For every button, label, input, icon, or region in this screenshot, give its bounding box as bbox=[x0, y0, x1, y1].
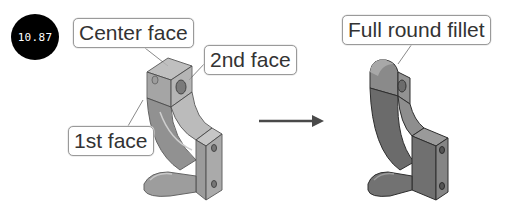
callout-second-face-text: 2nd face bbox=[210, 48, 291, 71]
transform-arrow bbox=[259, 115, 324, 127]
part-after bbox=[368, 60, 448, 200]
badge-text: 10.87 bbox=[18, 31, 53, 44]
callout-second-face: 2nd face bbox=[204, 45, 297, 75]
part-before bbox=[144, 58, 222, 200]
callout-center-face: Center face bbox=[73, 18, 194, 48]
callout-first-face: 1st face bbox=[68, 126, 154, 156]
figure-number-badge: 10.87 bbox=[11, 14, 59, 60]
callout-first-face-text: 1st face bbox=[74, 129, 148, 152]
callout-full-round-fillet-text: Full round fillet bbox=[348, 18, 485, 41]
leader-full-round-fillet bbox=[398, 44, 412, 64]
leader-1st-face bbox=[128, 100, 143, 126]
callout-full-round-fillet: Full round fillet bbox=[342, 15, 491, 45]
callout-center-face-text: Center face bbox=[79, 21, 188, 44]
